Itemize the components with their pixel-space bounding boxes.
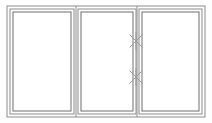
panel-center-glass bbox=[81, 12, 133, 111]
drawing-surface bbox=[0, 0, 212, 123]
panel-left-glass bbox=[13, 12, 71, 111]
window-elevation-drawing: Window Elevation bbox=[0, 0, 212, 123]
panel-right-glass bbox=[142, 12, 199, 111]
